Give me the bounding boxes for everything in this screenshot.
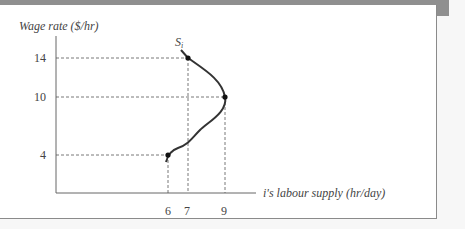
y-axis-label: Wage rate ($/hr): [19, 19, 99, 33]
curve-label: Si: [175, 35, 183, 50]
y-tick-14: 14: [34, 51, 46, 65]
y-tick-10: 10: [34, 90, 46, 104]
x-tick-6: 6: [165, 204, 171, 218]
labour-supply-chart: Wage rate ($/hr) i's labour supply (hr/d…: [0, 0, 465, 229]
x-tick-9: 9: [221, 204, 227, 218]
point-6-4: [165, 152, 170, 157]
point-7-14: [185, 55, 190, 60]
supply-curve: [166, 50, 225, 162]
dashed-guides: [56, 58, 225, 193]
y-tick-4: 4: [40, 148, 46, 162]
point-9-10: [222, 94, 227, 99]
x-axis-label: i's labour supply (hr/day): [263, 186, 385, 200]
x-tick-7: 7: [184, 204, 190, 218]
